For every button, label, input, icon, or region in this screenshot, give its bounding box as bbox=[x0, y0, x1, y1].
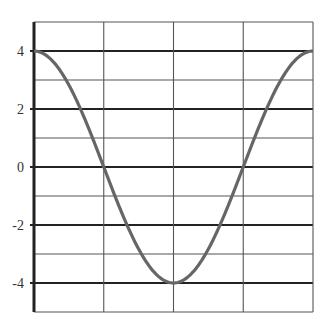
y-tick-label: 4 bbox=[17, 44, 24, 59]
grid bbox=[30, 22, 313, 312]
cosine-chart: 420-2-4 bbox=[0, 0, 326, 325]
y-tick-label: -4 bbox=[12, 276, 24, 291]
y-axis-labels: 420-2-4 bbox=[12, 44, 24, 291]
y-tick-label: -2 bbox=[12, 218, 24, 233]
y-tick-label: 0 bbox=[17, 160, 24, 175]
y-tick-label: 2 bbox=[17, 102, 24, 117]
